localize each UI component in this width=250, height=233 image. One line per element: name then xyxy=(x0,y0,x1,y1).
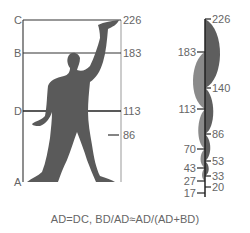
scale-183: 183 xyxy=(178,46,196,58)
height-86: 86 xyxy=(123,129,135,141)
scale-53: 53 xyxy=(212,155,224,167)
man-silhouette xyxy=(27,20,119,182)
scale-43: 43 xyxy=(184,162,196,174)
height-226: 226 xyxy=(123,14,141,26)
scale-86: 86 xyxy=(212,128,224,140)
scale-140: 140 xyxy=(212,82,230,94)
scale-20: 20 xyxy=(212,181,224,193)
scale-226: 226 xyxy=(212,13,230,25)
height-183: 183 xyxy=(123,47,141,59)
label-d: D xyxy=(14,105,22,117)
scale-113: 113 xyxy=(178,103,196,115)
scale-17: 17 xyxy=(184,187,196,199)
scale-27: 27 xyxy=(184,175,196,187)
height-113: 113 xyxy=(123,105,141,117)
label-b: B xyxy=(14,47,21,59)
red-series-shapes xyxy=(205,19,220,176)
scale-70: 70 xyxy=(184,143,196,155)
label-a: A xyxy=(14,176,22,188)
proportion-formula: AD=DC, BD/AD≈AD/(AD+BD) xyxy=(0,213,250,225)
modulor-diagram: C B D A 226 183 113 86 226 140 86 53 xyxy=(0,0,250,233)
label-c: C xyxy=(14,14,22,26)
